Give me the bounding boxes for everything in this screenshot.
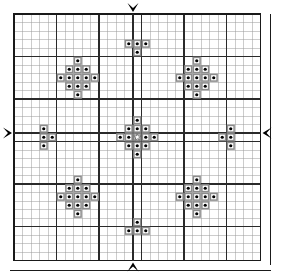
stitch-dot bbox=[153, 136, 156, 139]
stitch-dot bbox=[59, 195, 62, 198]
stitch-dot bbox=[136, 153, 139, 156]
stitch-dot bbox=[187, 68, 190, 71]
stitch-dot bbox=[127, 136, 130, 139]
stitch-dot bbox=[229, 144, 232, 147]
stitch-dot bbox=[85, 85, 88, 88]
stitch-dot bbox=[68, 76, 71, 79]
stitch-dot bbox=[68, 68, 71, 71]
stitch-dot bbox=[76, 212, 79, 215]
stitch-dot bbox=[204, 85, 207, 88]
stitch-dot bbox=[187, 204, 190, 207]
stitch-dot bbox=[144, 136, 147, 139]
stitch-dot bbox=[204, 68, 207, 71]
stitch-dot bbox=[187, 85, 190, 88]
stitch-dot bbox=[76, 178, 79, 181]
stitch-dot bbox=[85, 76, 88, 79]
stitch-dot bbox=[68, 204, 71, 207]
stitch-dot bbox=[136, 144, 139, 147]
stitch-dot bbox=[187, 195, 190, 198]
pattern-canvas bbox=[0, 0, 288, 280]
stitch-dot bbox=[136, 221, 139, 224]
stitch-dot bbox=[195, 187, 198, 190]
stitch-dot bbox=[229, 136, 232, 139]
stitch-dot bbox=[136, 42, 139, 45]
stitch-dot bbox=[68, 187, 71, 190]
stitch-dot bbox=[195, 59, 198, 62]
stitch-dot bbox=[42, 136, 45, 139]
stitch-dot bbox=[195, 93, 198, 96]
stitch-dot bbox=[68, 85, 71, 88]
stitch-dot bbox=[85, 68, 88, 71]
stitch-dot bbox=[144, 127, 147, 130]
stitch-dot bbox=[51, 136, 54, 139]
stitch-dot bbox=[85, 204, 88, 207]
stitch-dot bbox=[195, 212, 198, 215]
stitch-dot bbox=[195, 195, 198, 198]
stitch-dot bbox=[119, 136, 122, 139]
stitch-dot bbox=[42, 144, 45, 147]
stitch-dot bbox=[127, 229, 130, 232]
stitch-dot bbox=[212, 195, 215, 198]
stitch-dot bbox=[204, 187, 207, 190]
stitch-dot bbox=[144, 144, 147, 147]
stitch-dot bbox=[229, 127, 232, 130]
cross-stitch-chart bbox=[0, 0, 288, 280]
stitch-dot bbox=[144, 42, 147, 45]
stitch-dot bbox=[85, 187, 88, 190]
stitch-dot bbox=[127, 127, 130, 130]
stitch-dot bbox=[76, 187, 79, 190]
stitch-dot bbox=[76, 204, 79, 207]
stitch-dot bbox=[76, 76, 79, 79]
stitch-dot bbox=[195, 85, 198, 88]
stitch-dot bbox=[68, 195, 71, 198]
stitch-dot bbox=[204, 204, 207, 207]
stitch-dot bbox=[136, 127, 139, 130]
stitch-dot bbox=[178, 76, 181, 79]
stitch-dot bbox=[136, 229, 139, 232]
stitch-dot bbox=[195, 204, 198, 207]
stitch-dot bbox=[187, 187, 190, 190]
stitch-dot bbox=[93, 195, 96, 198]
stitch-dot bbox=[76, 68, 79, 71]
stitch-dot bbox=[212, 76, 215, 79]
stitch-dot bbox=[42, 127, 45, 130]
stitch-dot bbox=[93, 76, 96, 79]
stitch-dot bbox=[187, 76, 190, 79]
stitch-dot bbox=[127, 42, 130, 45]
stitch-dot bbox=[127, 144, 130, 147]
stitch-dot bbox=[221, 136, 224, 139]
stitch-dot bbox=[204, 195, 207, 198]
stitch-dot bbox=[204, 76, 207, 79]
stitch-dot bbox=[195, 178, 198, 181]
stitch-dot bbox=[85, 195, 88, 198]
stitch-dot bbox=[136, 119, 139, 122]
stitch-dot bbox=[76, 93, 79, 96]
stitch-dot bbox=[76, 195, 79, 198]
stitch-dot bbox=[59, 76, 62, 79]
stitch-dot bbox=[76, 59, 79, 62]
stitch-dot bbox=[195, 68, 198, 71]
stitch-dot bbox=[178, 195, 181, 198]
stitch-dot bbox=[144, 229, 147, 232]
stitch-dot bbox=[76, 85, 79, 88]
stitch-dot bbox=[136, 51, 139, 54]
stitch-dot bbox=[195, 76, 198, 79]
